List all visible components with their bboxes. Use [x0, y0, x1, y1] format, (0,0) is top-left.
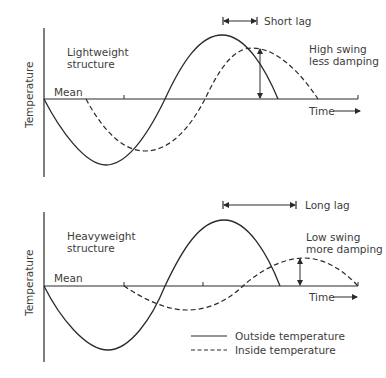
bottom-lag-label: Long lag: [305, 199, 350, 211]
bottom-structure-line2: structure: [67, 242, 136, 254]
top-lag-label: Short lag: [264, 15, 312, 27]
top-mean-label: Mean: [54, 86, 83, 98]
bottom-y-axis-label: Temperature: [23, 249, 35, 316]
legend-inside-label: Inside temperature: [235, 344, 336, 356]
bottom-time-label: Time: [309, 291, 335, 303]
bottom-swing-line2: more damping: [306, 243, 383, 255]
bottom-swing-line1: Low swing: [306, 231, 383, 243]
top-swing-line2: less damping: [309, 55, 379, 67]
top-time-label: Time: [309, 105, 335, 117]
top-structure-label: Lightweight structure: [67, 46, 129, 70]
top-y-axis-label: Temperature: [23, 61, 35, 128]
top-structure-line2: structure: [67, 58, 129, 70]
top-swing-label: High swing less damping: [309, 43, 379, 67]
bottom-structure-line1: Heavyweight: [67, 230, 136, 242]
bottom-swing-label: Low swing more damping: [306, 231, 383, 255]
top-structure-line1: Lightweight: [67, 46, 129, 58]
legend-outside-label: Outside temperature: [235, 330, 345, 342]
top-panel: [44, 17, 360, 177]
bottom-mean-label: Mean: [54, 272, 83, 284]
top-swing-line1: High swing: [309, 43, 379, 55]
bottom-structure-label: Heavyweight structure: [67, 230, 136, 254]
